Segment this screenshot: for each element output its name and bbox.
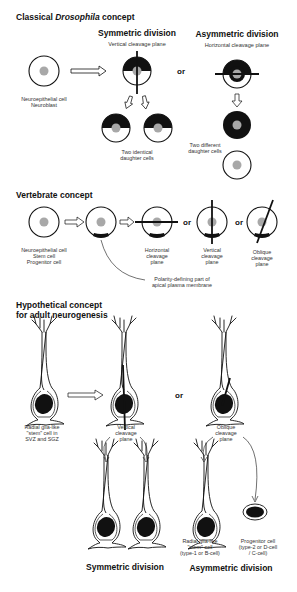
panel1-symmetric-mother-cell [123, 51, 151, 94]
panel3-or: or [175, 391, 183, 400]
panel3-symmetric-daughter-cells [88, 439, 166, 549]
panel3-asymmetric-title: Asymmetric division [186, 563, 276, 573]
panel2-or-2: or [235, 218, 243, 227]
panel1-source-cell [29, 56, 59, 86]
panel3-oblique-division-cell [201, 316, 258, 502]
panel1-or: or [177, 67, 185, 76]
panel1-title-suffix: concept [100, 12, 135, 22]
panel1-source-label-line: Neuroblast [4, 102, 84, 108]
panel3-symmetric-title: Symmetric division [82, 562, 168, 572]
panel2-horizontal-label: Horizontal cleavage plane [132, 247, 182, 266]
panel1-title: Classical Drosophila concept [16, 12, 135, 22]
panel1-asymmetric-result-line: daughter cells [180, 148, 230, 154]
panel2-polarized-cell [86, 207, 116, 238]
panel2-horizontal-cell [135, 207, 178, 238]
panel2-source-label-line: Progenitor cell [4, 259, 84, 265]
panel3-source-label: Radial glia-like "stem" cell in SVZ and … [12, 424, 72, 443]
panel1-asymmetric-mother-cell [215, 60, 259, 88]
panel3-progenitor-label-line: / C-cell) [228, 550, 288, 556]
panel2-oblique-cell [247, 200, 277, 243]
panel3-source-label-line: SVZ and SGZ [12, 436, 72, 442]
panel2-vertical-cell [197, 200, 227, 244]
panel2-polarity-label: Polarity-defining part of apical plasma … [140, 276, 224, 288]
panel3-stem-label: Radial glia-like "stem" cell (type-1 or … [170, 538, 230, 557]
panel1-title-italic: Drosophila [55, 12, 99, 22]
panel1-symmetric-result-line: daughter cells [106, 155, 168, 161]
panel1-title-prefix: Classical [16, 12, 55, 22]
panel2-source-label: Neuroepithelial cell Stem cell Progenito… [4, 247, 84, 266]
panel1-asymmetric-result: Two different daughter cells [180, 142, 230, 154]
panel2-arrow-2 [120, 217, 134, 227]
panel1-symmetric-subtitle: Vertical cleavage plane [96, 41, 178, 47]
panel3-vertical-label-line: plane [108, 436, 144, 442]
panel3-title: Hypothetical concept for adult neurogene… [16, 300, 108, 320]
panel2-or-1: or [183, 218, 191, 227]
panel3-oblique-label-line: plane [208, 436, 244, 442]
panel1-asymmetric-title: Asymmetric division [194, 29, 280, 39]
panel3-title-line: Hypothetical concept [16, 300, 108, 310]
panel2-title: Vertebrate concept [16, 190, 93, 200]
diagram-canvas [0, 0, 297, 592]
panel1-asym-down-arrow [232, 94, 242, 107]
panel3-arrow-right [68, 390, 103, 400]
panel2-source-cell [29, 207, 59, 237]
panel1-symmetric-result: Two identical daughter cells [106, 149, 168, 161]
panel2-vertical-label-line: plane [190, 259, 234, 265]
panel1-source-label: Neuroepithelial cell Neuroblast [4, 96, 84, 108]
panel3-asymmetric-daughter-cells [188, 439, 267, 549]
panel3-oblique-label: Oblique cleavage plane [208, 424, 244, 443]
panel2-vertical-label: Vertical cleavage plane [190, 247, 234, 266]
panel2-horizontal-label-line: plane [132, 259, 182, 265]
panel1-symmetric-title: Symmetric division [96, 28, 178, 38]
panel1-arrow-right [71, 66, 106, 76]
panel2-polarity-label-line: apical plasma membrane [140, 282, 224, 288]
panel1-symmetric-daughter-cells [102, 114, 172, 142]
panel3-vertical-label: Vertical cleavage plane [108, 424, 144, 443]
panel3-progenitor-label: Progenitor cell (type-2 or D-cell / C-ce… [228, 538, 288, 557]
panel1-down-arrows [123, 95, 150, 110]
panel2-oblique-label: Oblique cleavage plane [240, 249, 284, 268]
panel3-title-line: for adult neurogenesis [16, 310, 108, 320]
panel2-oblique-label-line: plane [240, 261, 284, 267]
panel3-source-glia-cell [26, 316, 64, 426]
panel2-arrow-1 [65, 217, 84, 227]
panel3-stem-label-line: (type-1 or B-cell) [170, 550, 230, 556]
panel1-asymmetric-subtitle: Horizontal cleavage plane [194, 42, 280, 48]
